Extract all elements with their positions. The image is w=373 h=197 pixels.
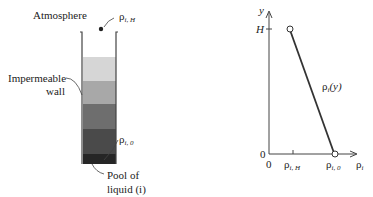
x-tick-rho0: ρi, 0 — [326, 158, 340, 174]
h-label: H — [256, 23, 264, 35]
pool-label-1: Pool of — [107, 169, 139, 181]
origin-y-label: 0 — [260, 148, 266, 160]
leader-wall — [66, 78, 82, 95]
band-5 — [83, 154, 116, 164]
surface-point — [99, 27, 103, 31]
concentration-column — [83, 57, 116, 164]
band-3 — [83, 104, 116, 129]
point-top — [287, 26, 293, 32]
wall-label-1: Impermeable — [8, 72, 66, 84]
diagram-canvas — [0, 0, 373, 197]
x-axis-label: ρi — [356, 158, 363, 174]
rho-bottom-label: ρi, 0 — [119, 133, 133, 149]
leader-pool — [92, 164, 104, 174]
band-2 — [83, 81, 116, 104]
band-4 — [83, 129, 116, 154]
impermeable-wall-left — [80, 32, 82, 164]
x-tick-rhoH: ρi, H — [284, 158, 300, 174]
pool-label-2: liquid (i) — [107, 183, 146, 195]
y-axis-label: y — [259, 4, 264, 16]
point-bottom — [332, 151, 338, 157]
rho-top-label: ρi, H — [119, 10, 135, 26]
profile-plot — [266, 11, 357, 157]
curve-label: ρi(y) — [322, 80, 342, 96]
leader-rhoH — [104, 18, 114, 27]
band-1 — [83, 57, 116, 81]
atmosphere-label: Atmosphere — [33, 9, 87, 21]
wall-label-2: wall — [46, 85, 65, 97]
origin-x-label: 0 — [266, 158, 272, 170]
